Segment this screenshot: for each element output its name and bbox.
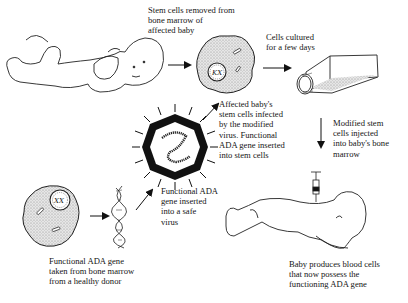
stem-cell-icon: KX <box>197 36 255 93</box>
dna-helix-icon <box>111 186 126 248</box>
syringe-icon <box>311 172 321 202</box>
label-gene-from-donor: Functional ADA gene taken from bone marr… <box>49 256 134 287</box>
culture-flask-icon <box>297 55 378 94</box>
label-stem-cells-infected: Affected baby's stem cells infected by t… <box>219 99 285 160</box>
svg-text:KX: KX <box>211 69 223 77</box>
label-baby-produces: Baby produces blood cells that now posse… <box>289 259 380 290</box>
donor-cell-icon: XX <box>23 186 79 247</box>
virus-icon <box>132 104 218 190</box>
label-modified-injected: Modified stem cells injected into baby's… <box>333 118 389 159</box>
baby-crawling-icon <box>226 192 366 249</box>
arrow-dna-to-virus <box>136 190 152 210</box>
arrow-virus-to-stem-cell <box>203 104 218 120</box>
label-cells-cultured: Cells cultured for a few days <box>266 32 315 52</box>
svg-text:XX: XX <box>53 197 65 205</box>
label-gene-inserted-virus: Functional ADA gene inserted into a safe… <box>161 186 218 227</box>
baby-lying-icon <box>7 35 164 92</box>
label-stem-cells-removed: Stem cells removed from bone marrow of a… <box>148 5 235 36</box>
